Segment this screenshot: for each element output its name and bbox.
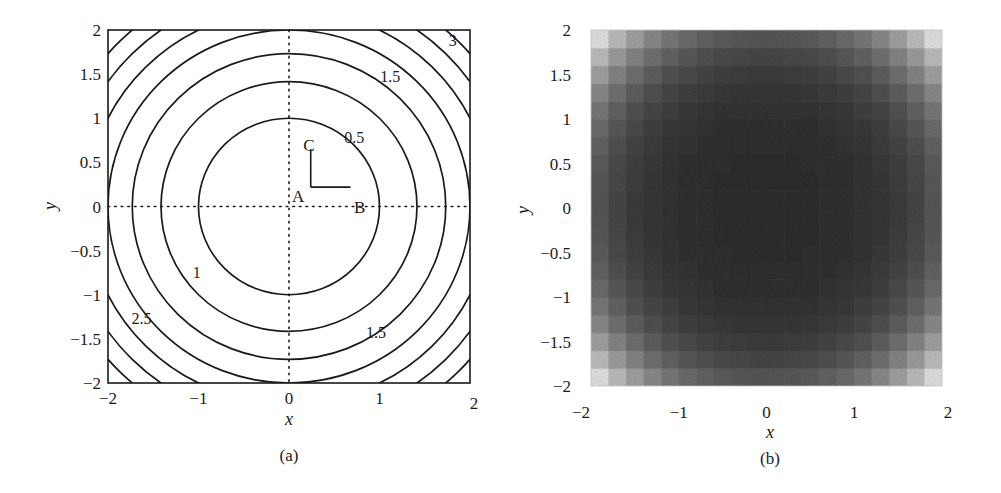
heatmap-cell [714, 279, 732, 297]
heatmap-cell [819, 190, 837, 208]
heatmap-cell [854, 226, 872, 244]
heatmap-cell [609, 279, 627, 297]
heatmap-cell [907, 333, 925, 351]
heatmap-cell [837, 66, 855, 84]
heatmap-cell [767, 190, 785, 208]
heatmap-cell [872, 66, 890, 84]
heatmap-cell [784, 244, 802, 262]
heatmap-cell [696, 350, 714, 368]
heatmap-cell [731, 119, 749, 137]
heatmap-cell [854, 350, 872, 368]
heatmap-cell [591, 279, 609, 297]
heatmap-cell [749, 297, 767, 315]
heatmap-cell [731, 66, 749, 84]
x-tick-label: −1 [670, 403, 688, 422]
heatmap-cell [837, 30, 855, 48]
heatmap-cell [819, 279, 837, 297]
heatmap-cell [854, 48, 872, 66]
heatmap-cell [626, 279, 644, 297]
heatmap-cell [609, 297, 627, 315]
heatmap-cell [802, 83, 820, 101]
y-tick-label: 0.5 [550, 155, 571, 174]
heatmap-cell [784, 83, 802, 101]
heatmap-cell [644, 261, 662, 279]
heatmap-cell [591, 261, 609, 279]
x-tick-label: 1 [850, 403, 859, 422]
heatmap-cell [731, 48, 749, 66]
point-label-a: A [292, 187, 305, 206]
heatmap-cell [644, 137, 662, 155]
heatmap-cell [591, 190, 609, 208]
heatmap-cell [644, 333, 662, 351]
heatmap-cell [696, 297, 714, 315]
heatmap-cell [644, 208, 662, 226]
x-tick-label: 2 [470, 394, 479, 413]
heatmap-cell [924, 350, 942, 368]
heatmap-cell [784, 190, 802, 208]
heatmap-cell [626, 350, 644, 368]
heatmap-cell [714, 190, 732, 208]
heatmap-cell [661, 30, 679, 48]
heatmap-cell [609, 261, 627, 279]
heatmap-cell [889, 190, 907, 208]
heatmap-cell [819, 30, 837, 48]
heatmap-cell [767, 297, 785, 315]
heatmap-cell [679, 137, 697, 155]
heatmap-cell [872, 172, 890, 190]
heatmap-cell [696, 208, 714, 226]
heatmap-cell [767, 350, 785, 368]
heatmap-cell [679, 172, 697, 190]
heatmap-cell [802, 350, 820, 368]
heatmap-cell [731, 83, 749, 101]
heatmap-cell [784, 66, 802, 84]
heatmap-cell [924, 83, 942, 101]
heatmap-cell [837, 350, 855, 368]
heatmap-cell [819, 226, 837, 244]
heatmap-cell [802, 137, 820, 155]
heatmap-cell [661, 190, 679, 208]
heatmap-cell [626, 244, 644, 262]
heatmap-cell [714, 315, 732, 333]
direction-vectors [311, 149, 351, 187]
heatmap-cell [767, 155, 785, 173]
heatmap-cell [661, 119, 679, 137]
heatmap-cell [679, 101, 697, 119]
heatmap-cell [854, 66, 872, 84]
heatmap-cell [609, 48, 627, 66]
heatmap-cell [854, 155, 872, 173]
heatmap-cell [767, 137, 785, 155]
heatmap-cell [907, 208, 925, 226]
heatmap-cell [819, 244, 837, 262]
heatmap-cell [907, 244, 925, 262]
y-tick-label: −1.5 [540, 333, 571, 352]
heatmap-cell [644, 101, 662, 119]
heatmap-cell [819, 333, 837, 351]
heatmap-cell [749, 368, 767, 386]
contour-label: 1.5 [380, 68, 400, 85]
heatmap-cell [819, 315, 837, 333]
y-tick-label: −1.5 [70, 330, 101, 349]
heatmap-cell [626, 333, 644, 351]
heatmap-cell [591, 48, 609, 66]
y-tick-label: −0.5 [70, 242, 101, 261]
x-tick-label: −2 [572, 403, 590, 422]
heatmap-cell [767, 172, 785, 190]
heatmap-cell [889, 333, 907, 351]
heatmap-cell [837, 172, 855, 190]
contour-label: 1 [193, 264, 201, 281]
heatmap-cell [854, 244, 872, 262]
heatmap-cell [644, 350, 662, 368]
heatmap-cell [696, 66, 714, 84]
heatmap-cell [889, 119, 907, 137]
heatmap-cell [889, 261, 907, 279]
heatmap-cell [872, 244, 890, 262]
heatmap-cell [731, 208, 749, 226]
heatmap-cell [784, 155, 802, 173]
heatmap-cell [661, 155, 679, 173]
heatmap-cell [819, 119, 837, 137]
heatmap-cell [626, 119, 644, 137]
heatmap-cell [767, 66, 785, 84]
heatmap-cell [591, 333, 609, 351]
x-tick-label: 1 [375, 389, 384, 408]
contour-plot-panel-a: 0.511.51.52.53 ABC −2−1012 21.510.50−0.5… [40, 0, 528, 465]
